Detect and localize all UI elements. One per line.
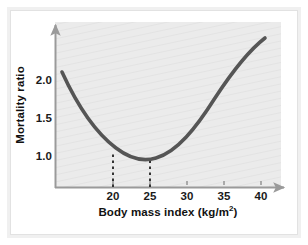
x-tick-label-25: 25	[144, 190, 157, 202]
plot-area-background	[55, 22, 281, 187]
x-tick-label-30: 30	[181, 190, 194, 202]
x-tick-label-40: 40	[255, 190, 268, 202]
x-tick-label-20: 20	[107, 190, 120, 202]
y-tick-label-1-0: 1.0	[16, 150, 52, 162]
mortality-bmi-chart: 2.0 1.5 1.0 20 25 30 35 40 Mortality rat…	[0, 0, 308, 245]
x-axis-title-tail: )	[234, 206, 238, 218]
y-axis-title: Mortality ratio	[14, 66, 26, 144]
figure-root: 2.0 1.5 1.0 20 25 30 35 40 Mortality rat…	[0, 0, 308, 245]
x-axis-title: Body mass index (kg/m2)	[98, 206, 237, 218]
x-tick-label-35: 35	[218, 190, 231, 202]
x-axis-title-main: Body mass index (kg/m	[98, 206, 229, 218]
